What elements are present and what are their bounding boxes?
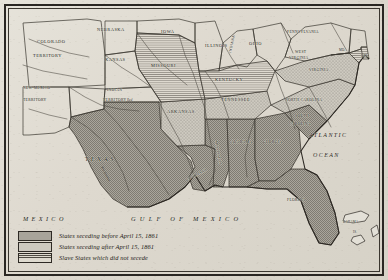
label-north-carolina: NORTH CAROLINA xyxy=(285,98,322,102)
legend-row: Slave States which did not secede xyxy=(18,252,214,263)
label-iowa: IOWA xyxy=(161,29,175,34)
label-illinois: ILLINOIS xyxy=(205,43,228,48)
label-colorado: COLORADO xyxy=(37,39,65,44)
label-west-virginia: VIRGINIA xyxy=(289,56,309,60)
map-plate: COLORADO TERRITORY NEBRASKA IOWA KANSAS … xyxy=(9,9,379,271)
label-new-mexico-territory: TERRITORY xyxy=(23,98,47,102)
label-florida: FLORIDA xyxy=(287,198,305,202)
label-pennsylvania: PENNSYLVANIA xyxy=(287,30,319,34)
legend-label-seceded-before: States seceding before April 15, 1861 xyxy=(59,232,158,239)
legend-row: States seceding after April 15, 1861 xyxy=(18,241,214,252)
label-tennessee: TENNESSEE xyxy=(221,97,250,102)
label-south: SOUTH xyxy=(295,114,309,118)
label-atlantic-ocean: OCEAN xyxy=(313,152,340,158)
label-virginia: VIRGINIA xyxy=(309,68,329,72)
label-alabama: ALABAMA xyxy=(231,140,252,144)
legend-label-seceded-after: States seceding after April 15, 1861 xyxy=(59,243,154,250)
label-indian: INDIAN xyxy=(107,88,122,92)
label-kentucky: KENTUCKY xyxy=(215,77,243,82)
secession-map-figure: COLORADO TERRITORY NEBRASKA IOWA KANSAS … xyxy=(0,0,388,280)
label-arkansas: ARKANSAS xyxy=(167,109,195,114)
label-bahama-is: IS. xyxy=(353,230,357,234)
label-georgia: GEORGIA xyxy=(263,140,282,144)
label-new-mexico: NEW MEXICO xyxy=(23,86,50,90)
label-nebraska: NEBRASKA xyxy=(97,27,125,32)
label-bahama: BAHAMA xyxy=(343,220,359,224)
legend-swatch-slave-not-seceded xyxy=(18,253,52,263)
label-gulf-of-mexico: GULF OF MEXICO xyxy=(131,215,242,222)
label-red-river: Red xyxy=(126,98,133,102)
label-delaware: DEL. xyxy=(361,54,369,58)
map-legend: States seceding before April 15, 1861 St… xyxy=(18,230,214,263)
label-west: WEST xyxy=(295,50,307,54)
label-mexico: MEXICO xyxy=(22,215,67,222)
legend-row: States seceding before April 15, 1861 xyxy=(18,230,214,241)
label-atlantic: ATLANTIC xyxy=(308,132,347,138)
label-south-carolina: CAROLINA xyxy=(289,122,311,126)
legend-label-slave-not-seceded: Slave States which did not secede xyxy=(59,254,148,261)
label-kansas: KANSAS xyxy=(105,57,126,62)
label-missouri: MISSOURI xyxy=(151,63,176,68)
bahama-islands xyxy=(343,211,379,245)
label-colorado-territory: TERRITORY xyxy=(33,53,62,58)
label-ohio: OHIO xyxy=(249,41,262,46)
label-indian-territory: TERRITORY xyxy=(103,98,127,102)
legend-swatch-seceded-after xyxy=(18,242,52,252)
label-texas: TEXAS xyxy=(85,156,116,162)
legend-swatch-seceded-before xyxy=(18,231,52,241)
label-maryland: MD. xyxy=(339,48,346,52)
